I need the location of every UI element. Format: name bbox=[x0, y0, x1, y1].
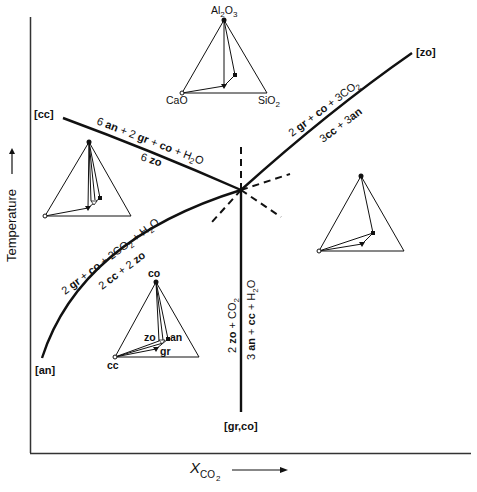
phase-diagram: Temperature X CO 2 [cc] [zo] [an] [gr,co… bbox=[0, 0, 477, 492]
x-axis-label: X CO 2 bbox=[189, 459, 288, 483]
reaction-cc-lower: 6 zo bbox=[139, 150, 163, 168]
reaction-gr-co-left: 2 zo + CO2 bbox=[226, 298, 241, 353]
svg-text:Temperature: Temperature bbox=[4, 189, 19, 262]
metastable-extension-cc bbox=[241, 190, 281, 217]
reaction-gr-co-right: 3 an + cc + H2O bbox=[245, 279, 260, 360]
label-cao: CaO bbox=[166, 94, 188, 106]
label-sio2: SiO2 bbox=[258, 94, 281, 109]
y-axis-label: Temperature bbox=[4, 148, 19, 262]
label-an: [an] bbox=[35, 364, 56, 376]
label-co: co bbox=[148, 267, 160, 279]
reaction-curve-an bbox=[42, 190, 241, 358]
label-gr-co: [gr,co] bbox=[224, 420, 258, 432]
composition-triangle-right bbox=[317, 174, 404, 254]
composition-triangle-top: Al2O3 CaO SiO2 bbox=[166, 4, 281, 109]
label-cc: [cc] bbox=[34, 108, 54, 120]
svg-text:CO: CO bbox=[200, 469, 215, 480]
reaction-curve-zo bbox=[241, 53, 412, 190]
label-cc-phase: cc bbox=[107, 359, 119, 371]
svg-text:2: 2 bbox=[216, 474, 221, 483]
composition-triangle-lower-left: co cc zo an gr bbox=[107, 267, 199, 371]
label-zo: [zo] bbox=[416, 46, 436, 58]
label-an-phase: an bbox=[170, 331, 182, 343]
label-zo-phase: zo bbox=[144, 331, 156, 343]
label-gr-phase: gr bbox=[160, 345, 171, 357]
composition-triangle-upper-left bbox=[43, 140, 131, 219]
label-al2o3: Al2O3 bbox=[211, 4, 238, 19]
reaction-an-upper: 2 gr + co + 2CO2 + H2O bbox=[59, 215, 163, 299]
